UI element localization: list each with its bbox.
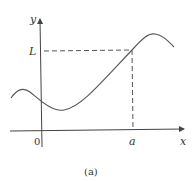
y-axis: [40, 19, 42, 147]
function-graph: y L 0 a x (a): [0, 0, 196, 181]
x-axis: [10, 129, 184, 131]
figure-caption: (a): [84, 166, 98, 177]
x-axis-label: x: [180, 135, 187, 148]
a-mark-label: a: [129, 135, 136, 148]
dashed-horizontal-l: [44, 50, 131, 51]
origin-label: 0: [34, 136, 40, 147]
dashed-vertical-a: [132, 50, 133, 130]
l-mark-label: L: [28, 45, 36, 58]
y-axis-label: y: [29, 13, 37, 26]
